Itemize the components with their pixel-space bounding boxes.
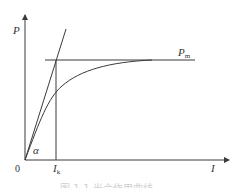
- y-axis-label: P: [12, 24, 20, 36]
- light-response-diagram: P 0 I Pm Ik α 图 1-1 光合作用曲线: [0, 0, 238, 188]
- response-curve: [25, 60, 152, 160]
- pm-label: Pm: [177, 46, 191, 60]
- x-axis-label: I: [210, 162, 216, 174]
- initial-slope-line: [25, 29, 66, 160]
- ik-label: Ik: [52, 162, 61, 176]
- origin-label: 0: [15, 163, 20, 174]
- figure-caption: 图 1-1 光合作用曲线: [60, 182, 153, 188]
- alpha-label: α: [33, 144, 39, 156]
